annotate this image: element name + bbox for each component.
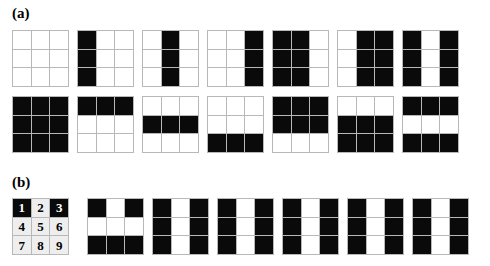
grid-cell bbox=[338, 68, 356, 86]
grid-cell bbox=[227, 50, 245, 68]
panel-b-label: (b) bbox=[12, 174, 30, 191]
grid-cell bbox=[115, 50, 133, 68]
grid-cell bbox=[180, 97, 198, 115]
pattern-grid-right-column bbox=[207, 30, 264, 87]
grid-cell bbox=[245, 116, 263, 134]
grid-cell bbox=[50, 50, 68, 68]
grid-cell bbox=[375, 50, 393, 68]
grid-cell bbox=[115, 97, 133, 115]
grid-cell bbox=[190, 236, 208, 254]
grid-cell bbox=[78, 97, 96, 115]
grid-cell bbox=[172, 236, 190, 254]
grid-cell bbox=[403, 134, 421, 152]
grid-cell bbox=[180, 50, 198, 68]
grid-cell bbox=[88, 236, 106, 254]
pattern-grid-middle-column-white-4 bbox=[347, 198, 404, 255]
grid-cell: 9 bbox=[50, 236, 68, 254]
grid-cell bbox=[143, 31, 161, 49]
grid-cell bbox=[283, 199, 301, 217]
grid-cell bbox=[32, 116, 50, 134]
grid-cell bbox=[162, 134, 180, 152]
grid-cell bbox=[115, 31, 133, 49]
grid-cell bbox=[357, 31, 375, 49]
grid-cell bbox=[97, 97, 115, 115]
grid-cell bbox=[227, 97, 245, 115]
grid-cell bbox=[180, 116, 198, 134]
grid-cell bbox=[190, 199, 208, 217]
grid-cell bbox=[375, 134, 393, 152]
grid-cell bbox=[162, 50, 180, 68]
grid-cell bbox=[338, 50, 356, 68]
grid-cell bbox=[450, 218, 468, 236]
grid-cell bbox=[422, 68, 440, 86]
grid-cell bbox=[302, 199, 320, 217]
grid-cell bbox=[338, 116, 356, 134]
grid-cell bbox=[273, 97, 291, 115]
grid-cell bbox=[255, 199, 273, 217]
grid-cell bbox=[440, 116, 458, 134]
grid-cell bbox=[153, 218, 171, 236]
grid-cell bbox=[180, 31, 198, 49]
grid-cell bbox=[13, 31, 31, 49]
grid-cell bbox=[403, 50, 421, 68]
grid-cell bbox=[432, 218, 450, 236]
grid-cell bbox=[162, 31, 180, 49]
grid-cell: 8 bbox=[32, 236, 50, 254]
grid-cell: 3 bbox=[50, 199, 68, 217]
grid-cell bbox=[255, 236, 273, 254]
grid-cell bbox=[348, 236, 366, 254]
grid-cell bbox=[143, 116, 161, 134]
grid-cell bbox=[273, 50, 291, 68]
grid-cell bbox=[143, 68, 161, 86]
grid-cell bbox=[338, 97, 356, 115]
grid-cell bbox=[403, 116, 421, 134]
grid-cell bbox=[218, 236, 236, 254]
grid-cell bbox=[403, 68, 421, 86]
grid-cell bbox=[245, 97, 263, 115]
grid-cell bbox=[255, 218, 273, 236]
grid-cell bbox=[450, 199, 468, 217]
grid-cell bbox=[310, 68, 328, 86]
grid-cell bbox=[50, 134, 68, 152]
grid-cell: 6 bbox=[50, 218, 68, 236]
grid-cell bbox=[283, 236, 301, 254]
pattern-grid-top-bottom-rows bbox=[402, 96, 459, 153]
grid-cell bbox=[338, 31, 356, 49]
grid-cell bbox=[227, 68, 245, 86]
grid-cell bbox=[348, 199, 366, 217]
grid-cell bbox=[375, 97, 393, 115]
grid-cell bbox=[208, 50, 226, 68]
grid-cell bbox=[208, 68, 226, 86]
pattern-grid-middle-column-white bbox=[152, 198, 209, 255]
grid-cell bbox=[97, 50, 115, 68]
grid-cell bbox=[227, 31, 245, 49]
grid-cell bbox=[422, 116, 440, 134]
pattern-grid-middle-row bbox=[142, 96, 199, 153]
grid-cell bbox=[125, 218, 143, 236]
grid-cell bbox=[237, 218, 255, 236]
grid-cell bbox=[107, 236, 125, 254]
grid-cell bbox=[97, 68, 115, 86]
grid-cell: 1 bbox=[13, 199, 31, 217]
grid-cell bbox=[273, 134, 291, 152]
grid-cell bbox=[172, 199, 190, 217]
grid-cell bbox=[143, 50, 161, 68]
grid-cell bbox=[50, 116, 68, 134]
grid-cell bbox=[292, 97, 310, 115]
grid-cell bbox=[78, 116, 96, 134]
grid-cell bbox=[218, 199, 236, 217]
grid-cell bbox=[273, 68, 291, 86]
grid-cell bbox=[440, 50, 458, 68]
grid-cell bbox=[32, 134, 50, 152]
grid-cell bbox=[107, 199, 125, 217]
grid-cell bbox=[440, 134, 458, 152]
grid-cell bbox=[310, 134, 328, 152]
grid-cell: 4 bbox=[13, 218, 31, 236]
grid-cell bbox=[115, 116, 133, 134]
grid-cell bbox=[292, 68, 310, 86]
grid-cell bbox=[310, 116, 328, 134]
grid-cell bbox=[357, 50, 375, 68]
grid-cell bbox=[208, 116, 226, 134]
grid-cell bbox=[375, 68, 393, 86]
grid-cell bbox=[375, 116, 393, 134]
